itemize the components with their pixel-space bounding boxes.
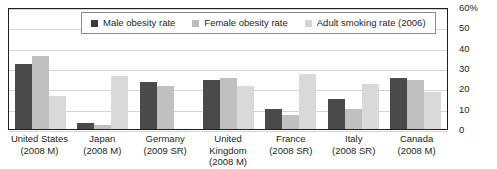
x-axis-label-line1: Canada <box>400 133 433 144</box>
x-axis-label-line2: (2009 SR) <box>134 145 197 157</box>
y-axis-tick-label: 10 <box>459 105 470 115</box>
x-axis-category-label: United Kingdom(2008 M) <box>197 133 260 168</box>
chart-legend: Male obesity rateFemale obesity rateAdul… <box>81 12 436 34</box>
legend-swatch-icon <box>305 20 312 27</box>
y-axis-tick-label: 60% <box>459 3 478 13</box>
x-axis-label-line1: United States <box>11 133 68 144</box>
legend-label: Male obesity rate <box>103 18 175 28</box>
x-axis-label-line1: Japan <box>89 133 115 144</box>
x-axis-label-line2: (2008 M) <box>71 145 134 157</box>
legend-swatch-icon <box>192 20 199 27</box>
legend-label: Female obesity rate <box>204 18 287 28</box>
x-axis-category-label: United States(2008 M) <box>8 133 71 168</box>
bar-adult-smoking-rate-2006 <box>299 74 316 129</box>
x-axis-category-label: Germany(2009 SR) <box>134 133 197 168</box>
y-axis-tick-label: 40 <box>459 44 470 54</box>
bar-male-obesity-rate <box>265 109 282 129</box>
legend-swatch-icon <box>91 20 98 27</box>
gridline <box>9 131 447 132</box>
y-axis-tick-label: 20 <box>459 85 470 95</box>
bar-female-obesity-rate <box>345 109 362 129</box>
legend-item: Female obesity rate <box>192 18 287 28</box>
legend-label: Adult smoking rate (2006) <box>317 18 426 28</box>
y-axis-tick-label: 30 <box>459 64 470 74</box>
bar-female-obesity-rate <box>282 115 299 129</box>
bar-group <box>9 9 72 129</box>
legend-item: Male obesity rate <box>91 18 175 28</box>
x-axis-label-line1: United Kingdom <box>209 133 247 156</box>
x-axis-label-line1: Italy <box>345 133 362 144</box>
bar-male-obesity-rate <box>15 64 32 129</box>
bar-female-obesity-rate <box>407 80 424 129</box>
bar-female-obesity-rate <box>94 125 111 129</box>
bar-female-obesity-rate <box>32 56 49 129</box>
bar-adult-smoking-rate-2006 <box>424 92 441 129</box>
x-axis-label-line1: France <box>276 133 306 144</box>
y-axis: 60%50403020100 <box>452 8 494 130</box>
x-axis-label-line2: (2008 SR) <box>259 145 322 157</box>
bar-male-obesity-rate <box>328 99 345 130</box>
x-axis-label-line2: (2008 M) <box>385 145 448 157</box>
bar-chart: Male obesity rateFemale obesity rateAdul… <box>0 0 497 169</box>
bar-adult-smoking-rate-2006 <box>111 76 128 129</box>
x-axis-label-line2: (2008 M) <box>8 145 71 157</box>
y-axis-tick-label: 50 <box>459 24 470 34</box>
bar-female-obesity-rate <box>157 86 174 129</box>
x-axis-category-label: France(2008 SR) <box>259 133 322 168</box>
bar-adult-smoking-rate-2006 <box>362 84 379 129</box>
bar-male-obesity-rate <box>77 123 94 129</box>
x-axis-label-line2: (2008 SR) <box>322 145 385 157</box>
x-axis-category-label: Canada(2008 M) <box>385 133 448 168</box>
x-axis-label-line1: Germany <box>146 133 185 144</box>
x-axis-category-label: Italy(2008 SR) <box>322 133 385 168</box>
x-axis: United States(2008 M)Japan(2008 M)German… <box>8 133 448 168</box>
legend-item: Adult smoking rate (2006) <box>305 18 426 28</box>
x-axis-category-label: Japan(2008 M) <box>71 133 134 168</box>
bar-female-obesity-rate <box>220 78 237 129</box>
bar-male-obesity-rate <box>390 78 407 129</box>
y-axis-tick-label: 0 <box>459 125 464 135</box>
bar-adult-smoking-rate-2006 <box>237 86 254 129</box>
bar-male-obesity-rate <box>140 82 157 129</box>
x-axis-label-line2: (2008 M) <box>197 156 260 168</box>
bar-adult-smoking-rate-2006 <box>49 96 66 129</box>
bar-male-obesity-rate <box>203 80 220 129</box>
